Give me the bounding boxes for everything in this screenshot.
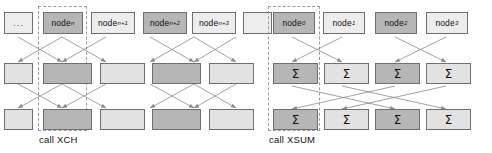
xsum-caption: call XSUM bbox=[269, 134, 315, 145]
xch-stage2-cell-2 bbox=[100, 109, 145, 130]
xch-stage1-cell-0 bbox=[4, 63, 33, 84]
xsum-stage2-sigma-3: Σ bbox=[426, 109, 471, 130]
xch-node-n: noden bbox=[43, 12, 83, 34]
xch-stage2-cell-1 bbox=[43, 109, 92, 130]
xsum-node-3: node3 bbox=[426, 12, 468, 34]
xsum-stage1-sigma-3: Σ bbox=[426, 63, 471, 84]
xch-stage2-cell-4 bbox=[209, 109, 254, 130]
xch-node-ellipsis: ... bbox=[4, 12, 33, 34]
xch-node-n1: noden+1 bbox=[91, 12, 135, 34]
xsum-stage1-sigma-1: Σ bbox=[324, 63, 369, 84]
xch-caption: call XCH bbox=[39, 134, 78, 145]
xch-stage1-cell-1 bbox=[43, 63, 92, 84]
figure-root: ... noden noden+1 noden+2 noden+3 call X… bbox=[0, 0, 492, 153]
panel-call-xsum: node0 node1 node2 node3 Σ Σ Σ Σ Σ Σ bbox=[250, 0, 492, 153]
xsum-node-1: node1 bbox=[323, 12, 365, 34]
xch-node-n3: noden+3 bbox=[192, 12, 236, 34]
xch-stage1-cell-4 bbox=[209, 63, 254, 84]
xsum-stage2-sigma-2: Σ bbox=[375, 109, 420, 130]
xsum-stage1-sigma-0: Σ bbox=[273, 63, 318, 84]
xch-stage1-cell-3 bbox=[152, 63, 201, 84]
xch-stage2-cell-3 bbox=[152, 109, 201, 130]
xch-node-n2: noden+2 bbox=[143, 12, 187, 34]
panel-call-xch: ... noden noden+1 noden+2 noden+3 call X… bbox=[0, 0, 250, 153]
xsum-stage1-sigma-2: Σ bbox=[375, 63, 420, 84]
xsum-stage2-sigma-1: Σ bbox=[324, 109, 369, 130]
xsum-node-0: node0 bbox=[273, 12, 315, 34]
xsum-node-2: node2 bbox=[375, 12, 417, 34]
xch-stage1-cell-2 bbox=[100, 63, 145, 84]
xsum-stage2-sigma-0: Σ bbox=[273, 109, 318, 130]
xch-stage2-cell-0 bbox=[4, 109, 33, 130]
